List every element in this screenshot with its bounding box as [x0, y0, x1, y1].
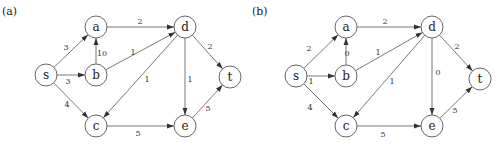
node-label: b	[92, 68, 100, 82]
node-label: a	[92, 20, 99, 34]
edge-b-d	[106, 32, 176, 70]
node-s: s	[35, 64, 57, 86]
edge-d-t	[192, 35, 222, 69]
node-label: c	[93, 119, 100, 133]
edge-e-t	[192, 85, 222, 118]
edge-weight-s-a: 2	[306, 44, 311, 53]
node-d: d	[421, 16, 443, 38]
node-t: t	[219, 66, 241, 88]
edge-weight-d-t: 2	[207, 42, 212, 51]
edge-weight-c-e: 5	[380, 130, 385, 139]
edge-weight-b-d: 1	[130, 48, 135, 57]
edge-weight-s-b: 1	[308, 77, 313, 86]
graph-diagram: (a)334102111255sabcdet (b)21402110255sab…	[0, 0, 501, 153]
node-b: b	[335, 65, 357, 87]
edge-d-t	[439, 35, 472, 71]
edge-weight-s-a: 3	[63, 43, 68, 52]
node-label: b	[342, 69, 350, 83]
node-s: s	[285, 65, 307, 87]
edge-s-c	[304, 84, 338, 118]
edge-weight-s-c: 4	[307, 103, 312, 112]
edge-s-c	[54, 83, 89, 118]
node-e: e	[174, 115, 196, 137]
node-e: e	[421, 115, 443, 137]
panel-label: (a)	[2, 5, 17, 18]
node-c: c	[85, 115, 107, 137]
edge-s-a	[54, 35, 88, 68]
edge-weight-d-t: 2	[454, 42, 459, 51]
edge-weight-a-d: 2	[382, 17, 387, 26]
edge-weight-d-c: 1	[144, 75, 149, 84]
edge-weight-d-e: 0	[435, 68, 440, 77]
node-label: e	[428, 119, 435, 133]
node-label: d	[428, 20, 436, 34]
panel-b: (b)21402110255sabcdet	[252, 5, 491, 139]
node-label: d	[181, 20, 189, 34]
node-c: c	[335, 115, 357, 137]
edge-weight-b-a: 0	[344, 49, 349, 58]
edge-weight-b-a: 10	[97, 49, 107, 58]
edge-weight-c-e: 5	[135, 129, 140, 138]
node-t: t	[469, 68, 491, 90]
edge-weight-a-d: 2	[137, 17, 142, 26]
node-label: s	[43, 68, 49, 82]
edge-weight-e-t: 5	[205, 104, 210, 113]
edge-weight-s-b: 3	[65, 77, 70, 86]
node-label: t	[478, 72, 483, 86]
node-b: b	[85, 64, 107, 86]
panel-a: (a)334102111255sabcdet	[2, 5, 241, 138]
node-a: a	[85, 16, 107, 38]
node-label: e	[181, 119, 188, 133]
node-label: c	[343, 119, 350, 133]
node-label: s	[293, 69, 299, 83]
node-label: t	[228, 70, 233, 84]
node-a: a	[335, 16, 357, 38]
edge-weight-e-t: 5	[452, 106, 457, 115]
edge-weight-d-c: 1	[389, 77, 394, 86]
edge-weight-d-e: 1	[187, 75, 192, 84]
panel-label: (b)	[252, 5, 268, 18]
node-label: a	[342, 20, 349, 34]
edge-b-d	[356, 32, 423, 70]
edge-weight-s-c: 4	[64, 100, 69, 109]
edge-d-c	[103, 35, 177, 118]
node-d: d	[174, 16, 196, 38]
edge-weight-b-d: 1	[375, 48, 380, 57]
